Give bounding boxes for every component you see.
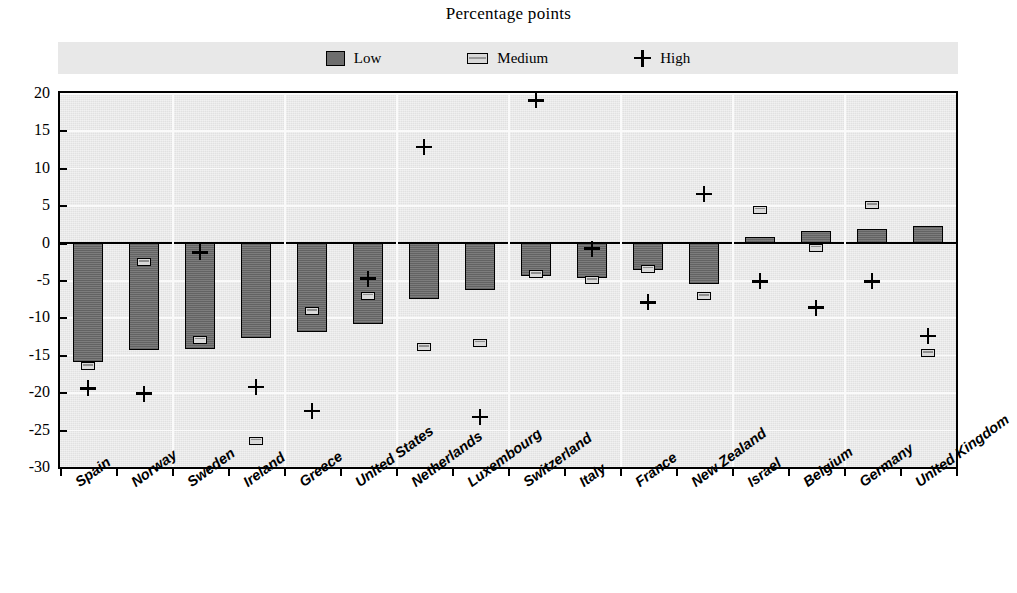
y-axis-tick-mark (58, 430, 67, 432)
y-axis-tick-mark (58, 280, 67, 282)
x-axis-tick-mark (116, 467, 118, 476)
x-axis-tick-mark (228, 467, 230, 476)
bar-low (745, 237, 774, 243)
x-axis-tick-mark (676, 467, 678, 476)
x-axis-tick-mark (956, 467, 958, 476)
marker-medium (81, 362, 94, 370)
marker-high-plus-icon (640, 294, 656, 310)
bar-texture (858, 230, 885, 241)
bar-texture (298, 244, 325, 332)
y-axis-tick-mark (58, 205, 67, 207)
legend-item-medium: Medium (467, 50, 548, 67)
marker-medium (809, 244, 822, 252)
y-axis-tick-label: -10 (4, 309, 50, 325)
y-axis-tick-mark (58, 243, 67, 245)
gridline-vertical (508, 93, 510, 467)
y-axis-tick-mark (58, 168, 67, 170)
x-axis-tick-mark (508, 467, 510, 476)
y-axis-tick-label: 15 (4, 122, 50, 138)
legend-item-high: High (634, 50, 690, 67)
bar-texture (74, 244, 101, 362)
gridline-vertical (172, 93, 174, 467)
bar-low (689, 243, 718, 285)
marker-medium (305, 307, 318, 315)
marker-high-plus-icon (584, 241, 600, 257)
bar-texture (802, 232, 829, 241)
marker-high-plus-icon (808, 300, 824, 316)
y-axis-tick-mark (58, 317, 67, 319)
y-axis-tick-label: -5 (4, 272, 50, 288)
y-axis-tick-mark (58, 130, 67, 132)
gridline-vertical (620, 93, 622, 467)
chart-container: Percentage points Low Medium High 201510… (0, 0, 1017, 593)
y-axis-tick-label: 0 (4, 235, 50, 251)
marker-medium (137, 258, 150, 266)
y-axis-tick-label: 20 (4, 85, 50, 101)
x-axis-tick-mark (340, 467, 342, 476)
marker-medium (361, 292, 374, 300)
legend-label-high: High (660, 50, 690, 67)
legend-item-low: Low (326, 50, 382, 67)
x-axis-tick-mark (60, 467, 62, 476)
y-axis-tick-label: 10 (4, 160, 50, 176)
x-axis-tick-mark (564, 467, 566, 476)
y-axis-tick-label: -30 (4, 459, 50, 475)
bar-texture (242, 244, 269, 338)
x-axis-tick-mark (284, 467, 286, 476)
marker-high-plus-icon (136, 386, 152, 402)
legend-plus-icon (634, 50, 651, 67)
y-axis-tick-mark (58, 355, 67, 357)
marker-high-plus-icon (472, 409, 488, 425)
marker-medium (473, 339, 486, 347)
bar-low (73, 243, 102, 363)
bar-texture (746, 238, 773, 242)
legend-label-low: Low (354, 50, 382, 67)
marker-medium (865, 201, 878, 209)
y-axis-tick-mark (58, 392, 67, 394)
marker-medium (921, 349, 934, 357)
marker-high-plus-icon (80, 380, 96, 396)
bar-low (409, 243, 438, 300)
legend-label-medium: Medium (497, 50, 548, 67)
x-axis-tick-mark (396, 467, 398, 476)
x-axis-tick-mark (172, 467, 174, 476)
marker-high-plus-icon (304, 403, 320, 419)
bar-texture (914, 227, 941, 241)
chart-legend: Low Medium High (58, 42, 958, 74)
marker-medium (249, 437, 262, 445)
gridline-vertical (284, 93, 286, 467)
gridline-vertical (396, 93, 398, 467)
x-axis-tick-mark (732, 467, 734, 476)
x-axis-tick-mark (788, 467, 790, 476)
marker-high-plus-icon (752, 273, 768, 289)
legend-swatch-low-icon (326, 51, 345, 66)
bar-low (297, 243, 326, 333)
marker-high-plus-icon (696, 186, 712, 202)
bar-low (913, 226, 942, 242)
marker-high-plus-icon (920, 328, 936, 344)
marker-medium (753, 206, 766, 214)
bar-texture (410, 244, 437, 299)
y-axis-tick-label: -20 (4, 384, 50, 400)
bar-low (857, 229, 886, 242)
marker-medium (585, 276, 598, 284)
chart-title: Percentage points (0, 4, 1017, 24)
marker-medium (193, 336, 206, 344)
x-axis-tick-mark (452, 467, 454, 476)
marker-high-plus-icon (192, 244, 208, 260)
marker-high-plus-icon (248, 379, 264, 395)
marker-high-plus-icon (360, 271, 376, 287)
bar-low (241, 243, 270, 339)
bar-texture (466, 244, 493, 290)
bar-texture (690, 244, 717, 284)
marker-high-plus-icon (864, 273, 880, 289)
y-axis-tick-label: -25 (4, 422, 50, 438)
marker-medium (641, 265, 654, 273)
marker-medium (697, 292, 710, 300)
x-axis-tick-mark (900, 467, 902, 476)
legend-swatch-medium-icon (467, 53, 488, 64)
bar-low (801, 231, 830, 242)
bar-low (465, 243, 494, 291)
marker-high-plus-icon (528, 92, 544, 108)
y-axis-tick-label: -15 (4, 347, 50, 363)
